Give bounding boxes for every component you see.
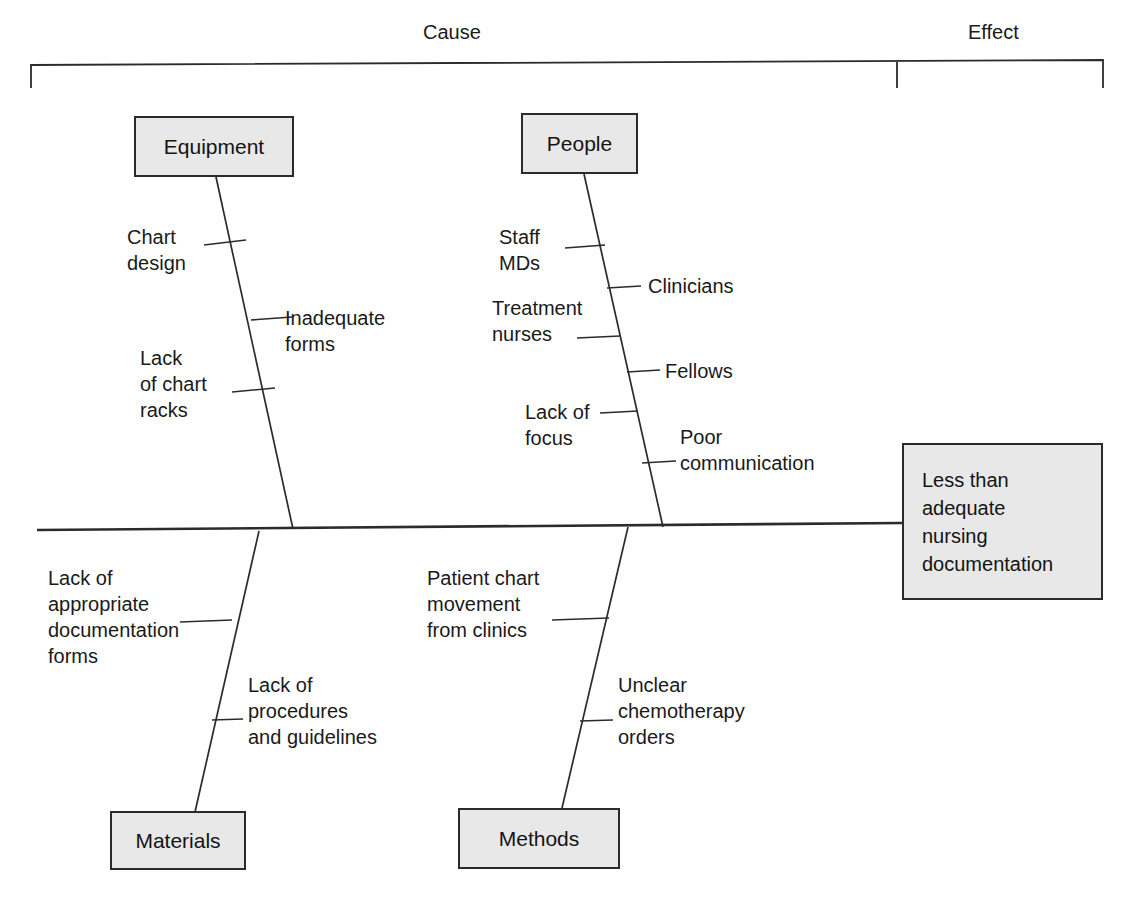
effect-line-4: documentation [922, 550, 1053, 578]
effect-line-1: Less than [922, 466, 1053, 494]
effect-header-label: Effect [968, 21, 1019, 44]
cause-label-lack-of-appropriate-documentation-forms: Lack of appropriate documentation forms [48, 565, 179, 669]
category-box-materials[interactable]: Materials [110, 811, 246, 870]
effect-box-text: Less than adequate nursing documentation [922, 466, 1053, 578]
category-box-people[interactable]: People [521, 113, 638, 174]
rib-methods [552, 527, 628, 808]
cause-label-lack-of-focus: Lack of focus [525, 399, 589, 451]
cause-label-poor-communication: Poor communication [680, 424, 815, 476]
effect-line-2: adequate [922, 494, 1053, 522]
header-bracket [31, 60, 1103, 88]
cause-label-lack-of-procedures-and-guidelines: Lack of procedures and guidelines [248, 672, 377, 750]
cause-label-patient-chart-movement-from-clinics: Patient chart movement from clinics [427, 565, 539, 643]
category-box-methods[interactable]: Methods [458, 808, 620, 869]
cause-header-label: Cause [423, 21, 481, 44]
cause-label-lack-of-chart-racks: Lack of chart racks [140, 345, 207, 423]
rib-equipment [204, 177, 293, 529]
fishbone-diagram: Cause Effect Equipment People Materials … [0, 0, 1137, 901]
cause-label-unclear-chemotherapy-orders: Unclear chemotherapy orders [618, 672, 745, 750]
rib-people [565, 174, 676, 527]
cause-label-treatment-nurses: Treatment nurses [492, 295, 582, 347]
cause-label-fellows: Fellows [665, 358, 733, 384]
spine-line [37, 523, 902, 530]
effect-line-3: nursing [922, 522, 1053, 550]
category-box-equipment[interactable]: Equipment [134, 116, 294, 177]
effect-box[interactable]: Less than adequate nursing documentation [902, 443, 1103, 600]
cause-label-staff-mds: Staff MDs [499, 224, 540, 276]
cause-label-chart-design: Chart design [127, 224, 186, 276]
cause-label-clinicians: Clinicians [648, 273, 734, 299]
cause-label-inadequate-forms: Inadequate forms [285, 305, 385, 357]
